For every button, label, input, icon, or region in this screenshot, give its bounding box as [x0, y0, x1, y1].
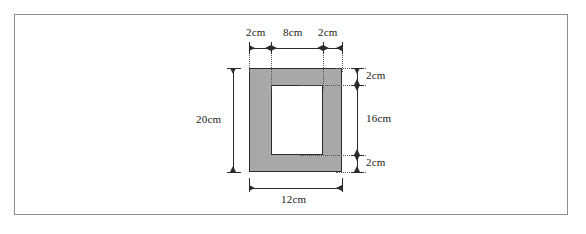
arrowhead-bottom-right: [336, 185, 342, 191]
dimension-label-right-bottom: 2cm: [366, 156, 386, 168]
top-dim-cap-right: [342, 42, 343, 54]
dimension-label-top-right: 2cm: [318, 26, 338, 38]
dimension-label-right-top: 2cm: [366, 69, 386, 81]
arrowhead-left-bottom: [230, 166, 236, 172]
dimension-label-left-total: 20cm: [196, 113, 221, 125]
arrowhead-left-top: [230, 68, 236, 74]
dimension-label-top-left: 2cm: [246, 26, 266, 38]
arrowhead-right-mid-start: [354, 85, 360, 91]
bottom-dim-line: [249, 188, 342, 189]
inner-rectangle: [271, 85, 323, 155]
figure-canvas: 2cm 8cm 2cm 20cm 2cm 16cm 2cm 12cm: [0, 0, 586, 234]
dimension-label-top-middle: 8cm: [283, 26, 303, 38]
right-dim-line-middle: [357, 85, 358, 155]
arrowhead-top-right-start: [323, 45, 329, 51]
arrowhead-right-bottom-end: [354, 166, 360, 172]
dimension-label-bottom-total: 12cm: [281, 193, 306, 205]
arrowhead-bottom-left: [249, 185, 255, 191]
arrowhead-top-mid-start: [271, 45, 277, 51]
arrowhead-top-left-start: [249, 45, 255, 51]
dimension-label-right-middle: 16cm: [366, 112, 391, 124]
right-dim-cap-bottom: [351, 172, 364, 173]
arrowhead-right-bottom-start: [354, 155, 360, 161]
arrowhead-right-top-start: [354, 68, 360, 74]
arrowhead-top-right-end: [336, 45, 342, 51]
bottom-dim-cap-right: [342, 178, 343, 192]
top-dim-line-middle: [271, 48, 323, 49]
left-dim-cap-bottom: [227, 172, 241, 173]
left-dim-line: [233, 68, 234, 172]
